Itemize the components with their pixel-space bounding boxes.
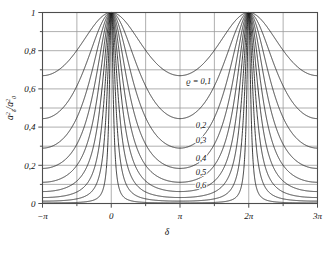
y-axis-denominator-subscript: 0 xyxy=(11,96,17,99)
curve-label: 0,2 xyxy=(196,120,207,130)
curve-label: ϱ = 0,1 xyxy=(186,76,211,86)
y-tick-label: 0,2 xyxy=(24,161,36,171)
curve-label: 0,5 xyxy=(196,167,207,177)
y-axis-denominator-superscript: 2 xyxy=(5,99,11,102)
y-tick-label: 1 xyxy=(31,8,36,18)
airy-function-chart: −π0π2π3π 00,20,40,60,81 ϱ = 0,1ϱ = 0,10,… xyxy=(0,0,334,255)
x-tick-label: π xyxy=(178,211,183,221)
y-tick-label: 0,4 xyxy=(24,122,36,132)
y-tick-label: 0 xyxy=(31,199,36,209)
y-tick-label: 0,6 xyxy=(24,84,36,94)
x-axis-title-text: δ xyxy=(165,227,170,237)
x-tick-label: 0 xyxy=(109,211,114,221)
x-tick-label: 3π xyxy=(312,211,323,221)
curve-label: 0,4 xyxy=(196,153,207,163)
figure-container: −π0π2π3π 00,20,40,60,81 ϱ = 0,1ϱ = 0,10,… xyxy=(0,0,334,255)
x-tick-label: −π xyxy=(37,211,48,221)
curve-label: 0,3 xyxy=(196,135,207,145)
x-tick-label: 2π xyxy=(244,211,254,221)
y-axis-numerator-superscript: 2 xyxy=(5,112,11,115)
curve-label: 0,6 xyxy=(196,180,207,190)
y-tick-label: 0,8 xyxy=(24,46,36,56)
x-axis-title: δ xyxy=(165,227,170,237)
